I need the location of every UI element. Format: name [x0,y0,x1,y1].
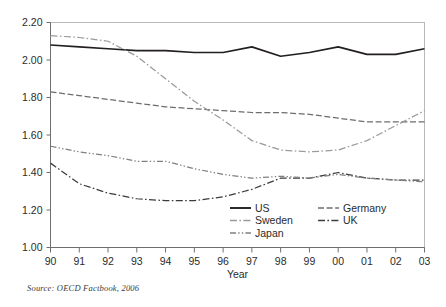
line-chart: 1.001.201.401.601.802.002.20909192939495… [0,0,446,307]
legend-label-sweden: Sweden [255,214,293,226]
y-tick-label: 1.80 [22,91,43,103]
y-tick-label: 1.60 [22,129,43,141]
legend-label-uk: UK [343,214,358,226]
y-tick-label: 1.40 [22,166,43,178]
x-tick-label: 94 [160,255,172,267]
x-tick-label: 03 [419,255,431,267]
x-tick-label: 01 [361,255,373,267]
x-tick-label: 95 [189,255,201,267]
y-tick-label: 2.00 [22,54,43,66]
y-tick-label: 2.20 [22,16,43,28]
x-tick-label: 00 [332,255,344,267]
legend-entry-japan[interactable]: Japan [230,227,284,239]
x-tick-label: 98 [275,255,287,267]
legend-label-japan: Japan [255,227,284,239]
x-tick-label: 91 [73,255,85,267]
source-note: Source: OECD Factbook, 2006 [27,283,139,293]
legend-entry-germany[interactable]: Germany [318,202,387,214]
x-tick-label: 97 [246,255,258,267]
legend-entry-us[interactable]: US [230,202,270,214]
chart-figure: 1.001.201.401.601.802.002.20909192939495… [0,0,446,307]
x-tick-label: 90 [45,255,57,267]
series-line-japan [51,146,425,182]
legend-label-germany: Germany [343,202,387,214]
x-tick-label: 93 [131,255,143,267]
legend-entry-sweden[interactable]: Sweden [230,214,293,226]
y-tick-label: 1.20 [22,204,43,216]
y-tick-label: 1.00 [22,241,43,253]
series-line-us [51,45,425,56]
x-tick-label: 92 [102,255,114,267]
x-tick-label: 96 [217,255,229,267]
series-line-uk [51,163,425,201]
series-line-sweden [51,36,425,152]
x-axis-title: Year [227,268,249,280]
legend-label-us: US [255,202,270,214]
x-tick-label: 99 [304,255,316,267]
series-line-germany [51,92,425,122]
x-tick-label: 02 [390,255,402,267]
legend-entry-uk[interactable]: UK [318,214,358,226]
